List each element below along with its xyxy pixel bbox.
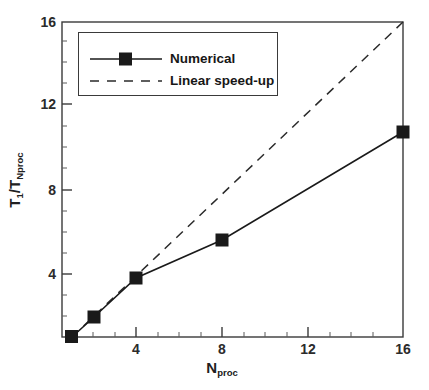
legend-sample-linear-speedup	[90, 71, 162, 91]
y-axis-minor-ticks	[62, 41, 67, 316]
legend-sample-numerical	[90, 49, 162, 69]
y-axis-title: T1/TNproc	[7, 152, 22, 207]
x-tick-label-8: 8	[218, 342, 226, 356]
x-axis-title-subscript: proc	[217, 367, 238, 378]
y-axis-major-ticks	[62, 104, 72, 274]
legend-square-marker	[119, 53, 132, 66]
chart-legend: Numerical Linear speed-up	[78, 32, 278, 96]
x-tick-label-16: 16	[395, 342, 411, 356]
y-axis-title-subscript-1: 1	[14, 193, 25, 198]
data-point-marker	[130, 272, 143, 285]
data-point-marker	[216, 234, 229, 247]
y-tick-label-4: 4	[48, 267, 56, 281]
data-point-marker	[88, 311, 101, 324]
legend-entry-numerical: Numerical	[79, 48, 277, 70]
y-tick-label-12: 12	[40, 97, 56, 111]
x-axis-title: Nproc	[206, 360, 237, 375]
speedup-chart-figure: 16 12 8 4 4 8 12 16 Nproc T1/TNproc Nume…	[0, 0, 429, 390]
y-tick-label-16: 16	[40, 15, 56, 29]
x-axis-title-base: N	[206, 359, 217, 376]
legend-entry-linear-speedup: Linear speed-up	[79, 70, 277, 92]
legend-label-numerical: Numerical	[170, 52, 235, 66]
data-point-marker	[397, 126, 410, 139]
series-numerical-line	[72, 132, 403, 337]
x-axis-major-ticks	[136, 327, 308, 337]
y-tick-label-8: 8	[48, 183, 56, 197]
x-axis-minor-ticks	[93, 332, 373, 337]
y-axis-title-part2: /T	[6, 180, 23, 193]
legend-label-linear-speedup: Linear speed-up	[170, 74, 274, 88]
data-point-marker	[65, 330, 78, 343]
x-tick-label-12: 12	[300, 342, 316, 356]
x-tick-label-4: 4	[132, 342, 140, 356]
y-axis-title-part1: T	[6, 198, 23, 207]
y-axis-title-subscript-2: Nproc	[14, 152, 25, 179]
